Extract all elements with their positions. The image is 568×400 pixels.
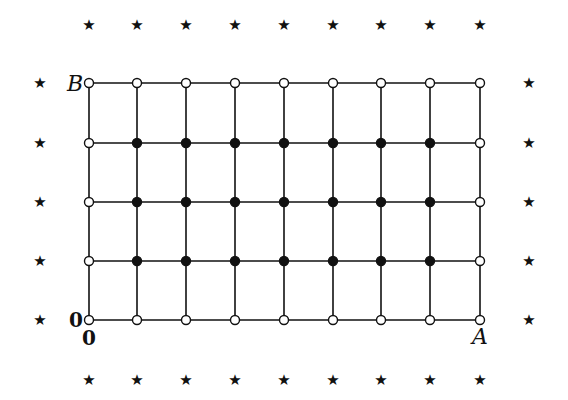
interior-point-filled: [377, 139, 386, 148]
interior-point-filled: [329, 139, 338, 148]
star-icon: ★: [522, 76, 535, 91]
boundary-point-open: [329, 79, 338, 88]
boundary-point-open: [231, 79, 240, 88]
boundary-point-open: [476, 139, 485, 148]
interior-point-filled: [231, 139, 240, 148]
star-icon: ★: [130, 373, 143, 388]
star-icon: ★: [228, 373, 241, 388]
star-icon: ★: [179, 373, 192, 388]
star-icon: ★: [473, 373, 486, 388]
star-icon: ★: [82, 18, 95, 33]
boundary-point-open: [426, 316, 435, 325]
interior-point-filled: [182, 257, 191, 266]
star-icon: ★: [33, 313, 46, 328]
star-icon: ★: [33, 195, 46, 210]
interior-point-filled: [377, 257, 386, 266]
boundary-point-open: [85, 198, 94, 207]
interior-point-filled: [133, 257, 142, 266]
star-icon: ★: [522, 254, 535, 269]
interior-point-filled: [182, 198, 191, 207]
star-icon: ★: [374, 373, 387, 388]
boundary-point-open: [85, 79, 94, 88]
boundary-point-open: [133, 79, 142, 88]
interior-point-filled: [280, 139, 289, 148]
boundary-point-open: [476, 79, 485, 88]
boundary-point-open: [231, 316, 240, 325]
interior-point-filled: [426, 139, 435, 148]
label-a: A: [472, 326, 488, 348]
star-icon: ★: [33, 136, 46, 151]
interior-point-filled: [280, 198, 289, 207]
interior-point-filled: [377, 198, 386, 207]
star-icon: ★: [522, 136, 535, 151]
star-icon: ★: [326, 18, 339, 33]
interior-point-filled: [329, 257, 338, 266]
star-icon: ★: [326, 373, 339, 388]
boundary-point-open: [85, 316, 94, 325]
star-icon: ★: [228, 18, 241, 33]
interior-point-filled: [182, 139, 191, 148]
star-icon: ★: [179, 18, 192, 33]
boundary-point-open: [85, 139, 94, 148]
boundary-point-open: [426, 79, 435, 88]
interior-point-filled: [426, 257, 435, 266]
star-icon: ★: [33, 254, 46, 269]
label-origin-below: 0: [82, 328, 96, 348]
boundary-point-open: [476, 257, 485, 266]
boundary-point-open: [329, 316, 338, 325]
star-icon: ★: [473, 18, 486, 33]
interior-point-filled: [231, 198, 240, 207]
boundary-point-open: [133, 316, 142, 325]
interior-point-filled: [426, 198, 435, 207]
boundary-point-open: [182, 316, 191, 325]
interior-point-filled: [329, 198, 338, 207]
boundary-point-open: [476, 198, 485, 207]
interior-point-filled: [133, 198, 142, 207]
label-b: B: [67, 73, 83, 95]
boundary-point-open: [377, 79, 386, 88]
star-icon: ★: [374, 18, 387, 33]
label-origin-left: 0: [69, 310, 83, 330]
boundary-point-open: [182, 79, 191, 88]
star-icon: ★: [130, 18, 143, 33]
star-icon: ★: [82, 373, 95, 388]
star-icon: ★: [423, 18, 436, 33]
boundary-point-open: [377, 316, 386, 325]
star-icon: ★: [522, 195, 535, 210]
boundary-point-open: [280, 316, 289, 325]
star-icon: ★: [522, 313, 535, 328]
interior-point-filled: [231, 257, 240, 266]
boundary-point-open: [280, 79, 289, 88]
interior-point-filled: [133, 139, 142, 148]
star-icon: ★: [423, 373, 436, 388]
star-icon: ★: [277, 18, 290, 33]
star-icon: ★: [277, 373, 290, 388]
star-icon: ★: [33, 76, 46, 91]
interior-point-filled: [280, 257, 289, 266]
boundary-point-open: [85, 257, 94, 266]
